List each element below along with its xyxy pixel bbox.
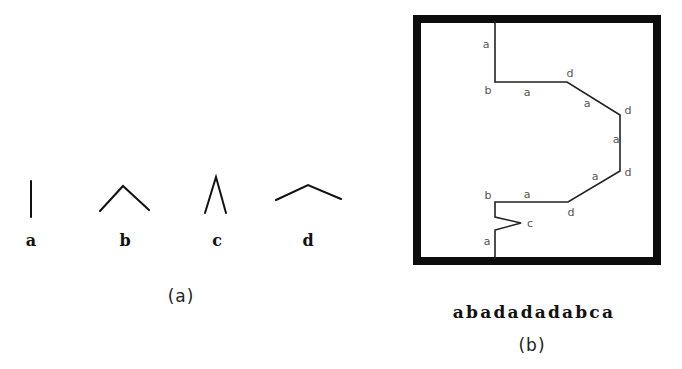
- segment-label: a: [524, 188, 531, 201]
- segment-label: a: [484, 235, 491, 248]
- segment-label: d: [567, 67, 574, 80]
- segment-label: d: [568, 206, 575, 219]
- segment-label: d: [625, 104, 632, 117]
- segment-label: d: [625, 166, 632, 179]
- segment-label: a: [613, 133, 620, 146]
- segment-label: c: [527, 217, 533, 230]
- segment-label: a: [524, 86, 531, 99]
- caption-b: (b): [518, 335, 545, 355]
- chain-code-string: abadadadabca: [453, 302, 615, 322]
- segment-label: a: [483, 38, 490, 51]
- segment-label: a: [584, 97, 591, 110]
- segment-label: b: [485, 84, 492, 97]
- contour-path: [495, 21, 620, 259]
- segment-label: b: [485, 189, 492, 202]
- segment-label: a: [592, 170, 599, 183]
